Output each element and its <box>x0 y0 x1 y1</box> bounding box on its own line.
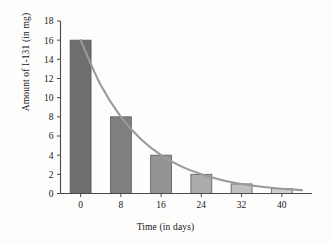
x-tick-label-group: 0816243240 <box>78 200 287 210</box>
x-tick-label: 32 <box>237 200 247 210</box>
y-tick-label-group: 024681012141618 <box>44 16 54 199</box>
x-tick-label: 24 <box>197 200 207 210</box>
x-tick-label: 0 <box>78 200 83 210</box>
y-tick-label: 8 <box>49 112 54 122</box>
bar <box>70 40 91 193</box>
y-tick-label: 12 <box>44 74 54 84</box>
x-tick-label: 40 <box>277 200 287 210</box>
y-tick-label: 16 <box>44 36 54 46</box>
x-tick-label: 16 <box>156 200 166 210</box>
y-tick-label: 10 <box>44 93 54 103</box>
bar-group <box>70 40 292 193</box>
y-tick-label: 18 <box>44 16 54 26</box>
bar <box>110 117 131 194</box>
bar-chart-plot: 024681012141618 0816243240 <box>0 0 331 243</box>
chart-figure: Amount of I-131 (in mg) Time (in days) 0… <box>0 0 331 243</box>
y-tick-label: 6 <box>49 131 54 141</box>
y-tick-label: 14 <box>44 55 54 65</box>
y-tick-label: 2 <box>49 170 54 180</box>
x-tick-label: 8 <box>118 200 123 210</box>
y-tick-label: 4 <box>49 151 54 161</box>
y-tick-label: 0 <box>49 189 54 199</box>
